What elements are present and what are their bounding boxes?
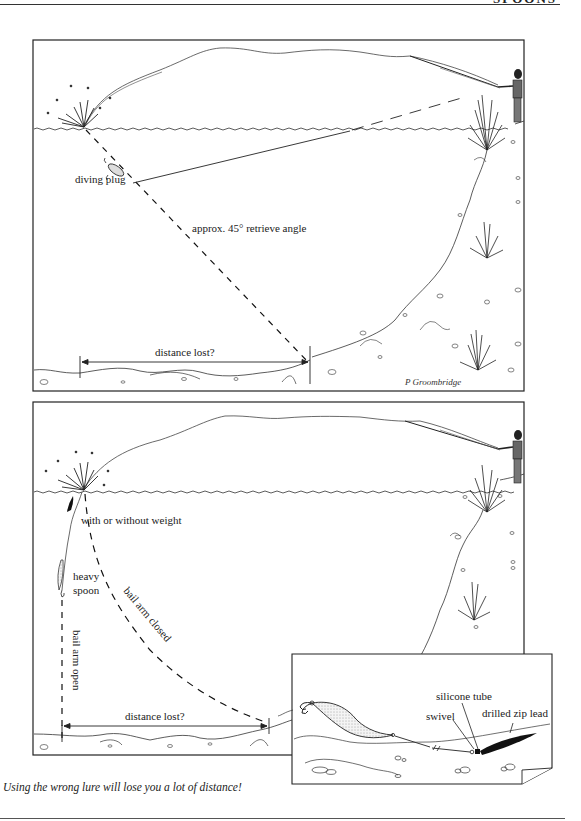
illustration: diving plug approx. 45° retrieve angle d…: [0, 0, 581, 821]
swivel-label: swivel: [426, 710, 455, 722]
heavy-spoon-label-1: heavy: [73, 570, 100, 582]
heavy-spoon-label-2: spoon: [73, 584, 100, 596]
silicone-tube-label: silicone tube: [436, 690, 492, 702]
distance-lost-label: distance lost?: [155, 346, 215, 358]
top-panel: diving plug approx. 45° retrieve angle d…: [33, 40, 524, 391]
silicone-tube-icon: [475, 749, 480, 754]
top-panel-frame: [33, 40, 524, 391]
drilled-zip-lead-label: drilled zip lead: [482, 707, 548, 719]
weight-label: with or without weight: [81, 514, 182, 526]
rig-inset: silicone tube swivel drilled zip lead: [278, 654, 552, 784]
distance-lost-label: distance lost?: [125, 710, 185, 722]
retrieve-angle-label: approx. 45° retrieve angle: [192, 222, 306, 234]
figure-caption: Using the wrong lure will lose you a lot…: [3, 781, 242, 793]
artist-signature: P Groombridge: [404, 377, 461, 387]
diving-plug-label: diving plug: [75, 173, 126, 185]
bail-open-label: bail arm open: [71, 630, 83, 691]
footer-rule: [0, 818, 565, 819]
